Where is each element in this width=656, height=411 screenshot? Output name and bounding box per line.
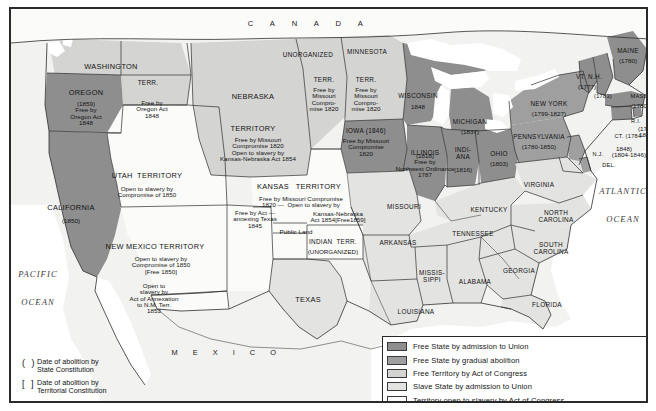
legend-swatch-free-territory-congress — [387, 369, 407, 378]
legend-date-notation: ( )Date of abolition by State Constituti… — [22, 358, 172, 396]
date-row-state-constitution-date: ( )Date of abolition by State Constituti… — [22, 358, 172, 375]
date-row-territorial-constitution-date: [ ]Date of abolition by Territorial Cons… — [22, 379, 172, 396]
legend-row-territory-open-slavery[interactable]: Territory open to slavery by Act of Cong… — [387, 394, 648, 403]
legend-row-slave-state-admission[interactable]: Slave State by admission to Union — [387, 380, 648, 393]
legend-label-slave-state-admission: Slave State by admission to Union — [413, 382, 532, 391]
legend-label-free-state-gradual-abolition: Free State by gradual abolition — [413, 356, 520, 365]
legend-label-free-territory-congress: Free Territory by Act of Congress — [413, 369, 527, 378]
legend-row-free-territory-congress[interactable]: Free Territory by Act of Congress — [387, 367, 648, 380]
map-page: .s0 { fill:#8e8e8e; } /* free state by a… — [0, 0, 656, 411]
date-mark-territorial-constitution-date: [ ] — [22, 379, 37, 390]
legend-row-free-state-gradual-abolition[interactable]: Free State by gradual abolition — [387, 353, 648, 366]
date-text-territorial-constitution-date: Date of abolition by Territorial Constit… — [37, 379, 107, 396]
legend-row-free-state-admission[interactable]: Free State by admission to Union — [387, 340, 648, 353]
legend-label-territory-open-slavery: Territory open to slavery by Act of Cong… — [413, 396, 564, 403]
legend-swatch-slave-state-admission — [387, 382, 407, 391]
date-mark-state-constitution-date: ( ) — [22, 358, 37, 369]
map-frame: .s0 { fill:#8e8e8e; } /* free state by a… — [9, 7, 648, 403]
legend-swatch-territory-open-slavery — [387, 396, 407, 403]
legend-swatch-free-state-admission — [387, 342, 407, 351]
date-text-state-constitution-date: Date of abolition by State Constitution — [37, 358, 99, 375]
legend-categories: Free State by admission to UnionFree Sta… — [382, 336, 648, 403]
legend-swatch-free-state-gradual-abolition — [387, 356, 407, 365]
legend-label-free-state-admission: Free State by admission to Union — [413, 342, 528, 351]
